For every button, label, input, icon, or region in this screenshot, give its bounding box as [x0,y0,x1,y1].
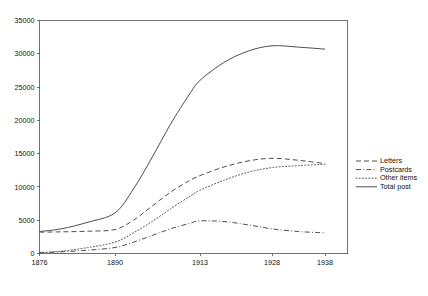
y-tick-label: 35000 [15,16,35,25]
x-tick-label: 1890 [107,258,123,267]
x-axis-ticks: 18761890191319281938 [32,254,334,268]
y-tick-label: 30000 [15,49,35,58]
series-line-letters [40,158,326,232]
x-tick-label: 1928 [264,258,280,267]
y-tick-label: 5000 [19,216,35,225]
x-tick-label: 1876 [32,258,48,267]
legend-label-total-post: Total post [380,182,411,191]
x-tick-label: 1913 [192,258,208,267]
chart-legend: LettersPostcardsOther itemsTotal post [356,156,418,191]
y-tick-label: 20000 [15,116,35,125]
series-line-postcards [40,221,326,253]
series-line-other-items [40,164,326,252]
axis-frame [40,21,348,254]
line-chart: 05000100001500020000250003000035000 1876… [0,0,428,296]
x-tick-label: 1938 [317,258,333,267]
y-tick-label: 15000 [15,149,35,158]
chart-container: 05000100001500020000250003000035000 1876… [0,0,428,296]
y-tick-label: 25000 [15,83,35,92]
y-tick-label: 0 [31,249,35,258]
y-axis-ticks: 05000100001500020000250003000035000 [15,16,40,258]
series-lines [40,46,326,253]
series-line-total-post [40,46,326,232]
y-tick-label: 10000 [15,183,35,192]
